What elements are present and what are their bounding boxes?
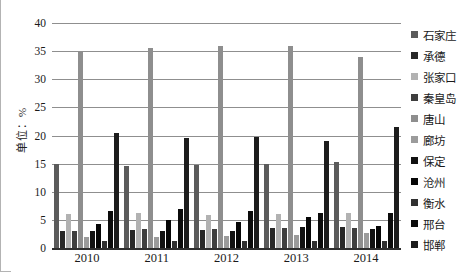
legend-label: 邯郸 [423,237,445,253]
bar-邢台-2013 [318,213,323,248]
legend-swatch [411,115,418,122]
legend-label: 邢台 [423,216,445,232]
plot-area [52,23,401,250]
y-tick-label: 5 [0,213,46,227]
bar-衡水-2011 [172,241,177,248]
bar-衡水-2010 [102,241,107,248]
bar-衡水-2012 [242,241,247,248]
bar-沧州-2011 [166,220,171,248]
bar-邯郸-2011 [184,138,189,248]
legend-label: 沧州 [423,174,445,190]
bar-沧州-2010 [96,224,101,248]
x-tick-label: 2013 [261,251,331,266]
bar-秦皇岛-2013 [282,228,287,248]
bar-衡水-2014 [382,241,387,248]
y-tick-label: 25 [0,100,46,114]
bar-秦皇岛-2010 [72,231,77,248]
legend-item: 邢台 [411,213,471,234]
bar-张家口-2011 [136,213,141,248]
legend-label: 秦皇岛 [423,90,456,106]
y-tick-label: 0 [0,241,46,255]
bar-保定-2013 [300,227,305,248]
bar-张家口-2012 [206,215,211,248]
x-tick-label: 2011 [122,251,192,266]
bar-唐山-2013 [288,46,293,249]
y-tick-label: 35 [0,44,46,58]
x-axis-labels: 20102011201220132014 [52,251,401,266]
bar-group-2014 [331,23,401,248]
legend-item: 张家口 [411,66,471,87]
bar-邯郸-2010 [114,133,119,248]
bar-承德-2012 [200,230,205,248]
legend-label: 张家口 [423,69,456,85]
bar-石家庄-2014 [334,162,339,248]
legend-label: 廊坊 [423,132,445,148]
y-tick-label: 40 [0,16,46,30]
bar-邢台-2011 [178,209,183,248]
bar-廊坊-2012 [224,236,229,248]
bar-唐山-2011 [148,48,153,248]
legend-swatch [411,241,418,248]
bar-邢台-2010 [108,211,113,248]
bar-石家庄-2012 [194,165,199,248]
bar-沧州-2014 [376,226,381,248]
y-tick-label: 30 [0,72,46,86]
legend-swatch [411,73,418,80]
bar-廊坊-2014 [364,233,369,248]
y-tick-label: 20 [0,129,46,143]
legend-item: 石家庄 [411,24,471,45]
bar-group-2011 [122,23,192,248]
y-tick-label: 15 [0,157,46,171]
bar-承德-2013 [270,228,275,248]
bar-唐山-2010 [78,51,83,248]
legend-label: 保定 [423,153,445,169]
bar-邢台-2014 [388,213,393,248]
legend-label: 石家庄 [423,27,456,43]
legend-swatch [411,199,418,206]
legend-label: 承德 [423,48,445,64]
x-tick-label: 2012 [192,251,262,266]
legend-swatch [411,31,418,38]
legend-swatch [411,136,418,143]
y-axis-labels: 0510152025303540 [0,23,49,248]
bar-秦皇岛-2012 [212,229,217,248]
legend: 石家庄承德张家口秦皇岛唐山廊坊保定沧州衡水邢台邯郸 [411,24,471,255]
bar-group-2010 [52,23,122,248]
legend-item: 邯郸 [411,234,471,255]
bars-layer [52,23,401,248]
bar-group-2013 [261,23,331,248]
bar-沧州-2012 [236,222,241,248]
bar-邯郸-2014 [394,127,399,248]
bar-保定-2012 [230,231,235,248]
y-tick-label: 10 [0,185,46,199]
bar-唐山-2012 [218,46,223,249]
bar-衡水-2013 [312,241,317,248]
x-tick-label: 2014 [331,251,401,266]
legend-swatch [411,94,418,101]
legend-swatch [411,157,418,164]
bar-group-2012 [192,23,262,248]
legend-item: 沧州 [411,171,471,192]
legend-item: 唐山 [411,108,471,129]
legend-item: 保定 [411,150,471,171]
bar-承德-2010 [60,231,65,248]
bar-秦皇岛-2014 [352,228,357,248]
x-tick-label: 2010 [52,251,122,266]
bar-石家庄-2010 [54,164,59,248]
bar-张家口-2010 [66,214,71,248]
legend-item: 廊坊 [411,129,471,150]
bar-保定-2010 [90,231,95,248]
legend-swatch [411,220,418,227]
bar-廊坊-2010 [84,237,89,248]
legend-swatch [411,52,418,59]
page-border-corner [0,271,11,272]
legend-item: 衡水 [411,192,471,213]
bar-张家口-2014 [346,213,351,248]
bar-沧州-2013 [306,217,311,248]
bar-廊坊-2013 [294,235,299,248]
legend-item: 秦皇岛 [411,87,471,108]
bar-承德-2011 [130,230,135,248]
bar-石家庄-2013 [264,164,269,248]
bar-承德-2014 [340,227,345,248]
legend-item: 承德 [411,45,471,66]
